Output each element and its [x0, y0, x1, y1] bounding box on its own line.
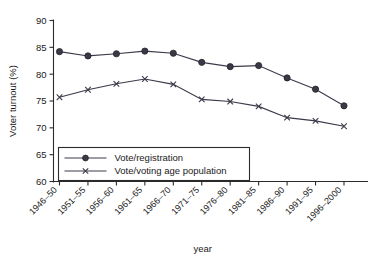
x-tick-label: 1966–70: [141, 185, 173, 217]
x-tick-group: 1946–501951–551956–601961–651966–701971–…: [27, 182, 344, 224]
data-point: [312, 86, 318, 92]
chart-canvas: 606570758085901946–501951–551956–601961–…: [0, 0, 376, 267]
legend: Vote/registrationVote/voting age populat…: [59, 148, 250, 181]
data-point: [113, 51, 119, 57]
y-tick-label: 70: [36, 122, 47, 133]
legend-label: Vote/registration: [115, 152, 184, 163]
legend-marker-circle-icon: [83, 155, 89, 161]
data-point: [85, 53, 91, 59]
data-point: [227, 64, 233, 70]
x-tick-label: 1971–75: [169, 185, 201, 217]
series-line: [60, 79, 345, 126]
legend-label: Vote/voting age population: [115, 165, 227, 176]
x-tick-label: 1951–55: [56, 185, 88, 217]
y-tick-label: 85: [36, 42, 47, 53]
x-axis-title: year: [194, 243, 212, 254]
x-tick-label: 1946–50: [27, 185, 59, 217]
data-point: [170, 50, 176, 56]
x-tick-label: 1976–80: [198, 185, 230, 217]
x-tick-label: 1961–65: [112, 185, 144, 217]
y-axis-title: Voter turnout (%): [7, 65, 18, 137]
x-tick-label: 1981–85: [226, 185, 258, 217]
y-tick-label: 60: [36, 176, 47, 187]
data-point: [256, 62, 262, 68]
x-tick-label: 1956–60: [84, 185, 116, 217]
x-tick-label: 1986–90: [255, 185, 287, 217]
data-point: [56, 49, 62, 55]
data-point: [199, 59, 205, 65]
data-point: [341, 103, 347, 109]
data-point: [142, 48, 148, 54]
voter-turnout-chart: 606570758085901946–501951–551956–601961–…: [0, 0, 376, 267]
y-tick-group: 60657075808590: [36, 15, 54, 187]
y-tick-label: 65: [36, 149, 47, 160]
y-tick-label: 75: [36, 95, 47, 106]
y-tick-label: 80: [36, 69, 47, 80]
y-tick-label: 90: [36, 15, 47, 26]
data-point: [284, 75, 290, 81]
